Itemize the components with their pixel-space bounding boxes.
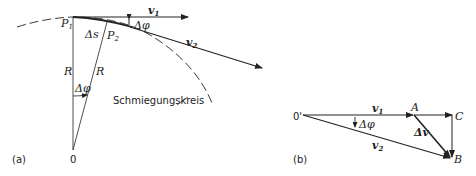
- osculating-circle-arc: [17, 17, 212, 103]
- label-v2: v2: [186, 36, 197, 50]
- label-v1: v1: [148, 4, 159, 18]
- figure-b-tag: (b): [293, 154, 307, 165]
- diagram-canvas: P1 P2 Δs Δφ v1 v2 R R Δφ Schmiegungskrei…: [0, 0, 476, 176]
- center-angle-arc: [73, 95, 87, 96]
- figure-a-tag: (a): [12, 154, 26, 165]
- label-origin-b: 0': [293, 111, 302, 122]
- label-delta-v: Δv: [413, 126, 430, 139]
- label-p2: P2: [106, 29, 119, 43]
- trajectory-arc: [73, 17, 132, 27]
- label-v1-b: v1: [372, 102, 383, 116]
- label-delta-phi-top: Δφ: [133, 19, 150, 32]
- label-delta-phi-b: Δφ: [358, 118, 375, 131]
- figure-b: 0' A C B v1 v2 Δφ Δv (b): [293, 101, 464, 166]
- label-osculating-circle: Schmiegungskreis: [113, 95, 204, 106]
- label-origin: 0: [70, 154, 76, 165]
- label-delta-phi-center: Δφ: [74, 82, 91, 95]
- label-p1: P1: [60, 17, 73, 31]
- label-radius-2: R: [95, 65, 104, 78]
- label-c: C: [455, 110, 464, 123]
- label-b: B: [453, 153, 462, 166]
- label-v2-b: v2: [372, 139, 383, 153]
- label-radius-1: R: [63, 65, 72, 78]
- figure-a: P1 P2 Δs Δφ v1 v2 R R Δφ Schmiegungskrei…: [12, 4, 262, 165]
- label-a: A: [410, 101, 419, 114]
- label-delta-s: Δs: [84, 28, 99, 41]
